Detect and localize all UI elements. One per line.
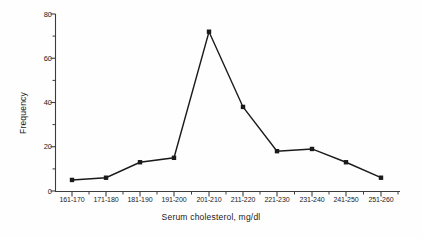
chart-figure: 80 60 40 20 0 bbox=[0, 0, 422, 238]
x-tick-label-6: 221-230 bbox=[265, 196, 290, 203]
x-tick-label-5: 211-220 bbox=[231, 196, 255, 203]
x-tick-label-2: 181-190 bbox=[128, 196, 153, 203]
x-tick-label-9: 251-260 bbox=[369, 196, 394, 203]
data-point-marker bbox=[70, 178, 74, 182]
x-tick-label-7: 231-240 bbox=[300, 196, 325, 203]
x-tick-label-8: 241-250 bbox=[334, 196, 359, 203]
x-tick-label-3: 191-200 bbox=[162, 196, 187, 203]
data-point-marker bbox=[207, 30, 211, 34]
x-tick-label-1: 171-180 bbox=[94, 196, 119, 203]
data-point-marker bbox=[379, 176, 383, 180]
data-point-marker bbox=[104, 176, 108, 180]
data-point-marker bbox=[310, 147, 314, 151]
data-point-marker bbox=[138, 160, 142, 164]
data-markers bbox=[70, 30, 383, 183]
data-point-marker bbox=[172, 156, 176, 160]
data-point-marker bbox=[275, 149, 279, 153]
x-axis-title: Serum cholesterol, mg/dl bbox=[0, 212, 422, 222]
x-tick-label-0: 161-170 bbox=[60, 196, 85, 203]
y-major-ticks bbox=[51, 14, 56, 191]
y-axis-title: Frequency bbox=[18, 68, 28, 158]
data-point-marker bbox=[241, 105, 245, 109]
data-series-line bbox=[72, 32, 381, 180]
x-tick-label-4: 201-210 bbox=[197, 196, 222, 203]
data-point-marker bbox=[344, 160, 348, 164]
